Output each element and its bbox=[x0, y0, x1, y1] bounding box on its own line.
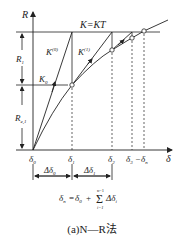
figure-caption: (a)N—R法 bbox=[0, 220, 184, 236]
k0-arrow bbox=[52, 82, 55, 92]
tick-delta-3: δ3 bbox=[126, 154, 133, 165]
tick-delta-1: δ1 bbox=[68, 154, 75, 165]
tick-delta-n: δn bbox=[141, 154, 148, 165]
k-zero-label: K(0) bbox=[45, 47, 58, 57]
svg-text:=: = bbox=[69, 193, 74, 203]
k-one-label: K(1) bbox=[77, 47, 90, 57]
tick-delta-0: δ0 bbox=[29, 154, 36, 165]
svg-text:Σ: Σ bbox=[96, 192, 103, 206]
kt-label: K=KT bbox=[79, 19, 107, 30]
svg-text:δn: δn bbox=[59, 193, 66, 204]
k1-arrow bbox=[88, 59, 92, 64]
re1-label: Re,1 bbox=[14, 113, 26, 125]
k2-tangent bbox=[112, 32, 132, 50]
svg-text:+: + bbox=[86, 193, 91, 203]
tick-delta-2: δ2 bbox=[108, 154, 115, 165]
svg-text:i=1: i=1 bbox=[97, 205, 104, 210]
svg-text:Δδi: Δδi bbox=[105, 193, 117, 204]
delta-inc-1: Δδ1 bbox=[83, 165, 95, 176]
svg-text:δ0: δ0 bbox=[75, 193, 82, 204]
nr-method-diagram: R δ K=KT K(0) K(1) K0 R1 Re,1 δ0 δ1 δ2 δ… bbox=[0, 0, 184, 237]
r-axis-label: R bbox=[21, 9, 28, 20]
delta-axis-label: δ bbox=[166, 153, 171, 164]
k0-label: K0 bbox=[38, 74, 48, 85]
delta-inc-0: Δδ0 bbox=[43, 165, 56, 176]
k1-tangent bbox=[72, 32, 112, 85]
r1-label: R1 bbox=[15, 54, 24, 65]
formula: δn = δ0 + n−1 Σ i=1 Δδi bbox=[59, 188, 117, 210]
